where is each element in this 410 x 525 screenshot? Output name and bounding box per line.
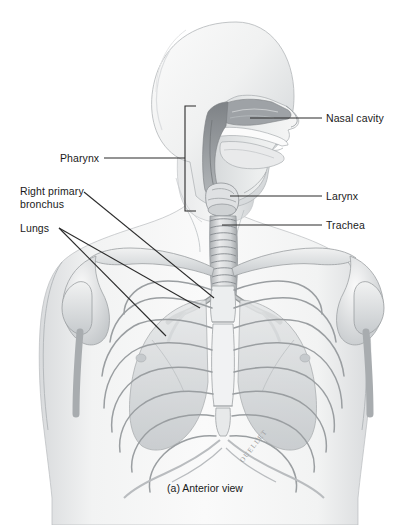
label-larynx: Larynx [326, 190, 358, 203]
label-pharynx: Pharynx [60, 152, 99, 165]
label-right-primary-bronchus: Right primary bronchus [20, 185, 84, 210]
label-rpb-line1: Right primary [20, 185, 84, 197]
anatomy-figure: OUELLET Nasal cavity Larynx Trachea Phar… [0, 0, 410, 525]
label-nasal-cavity: Nasal cavity [326, 112, 384, 125]
respiratory-system-illustration: OUELLET [0, 0, 410, 525]
label-lungs: Lungs [20, 222, 49, 235]
label-rpb-line2: bronchus [20, 198, 64, 210]
figure-caption: (a) Anterior view [0, 482, 410, 494]
label-trachea: Trachea [326, 219, 365, 232]
larynx [206, 183, 239, 217]
